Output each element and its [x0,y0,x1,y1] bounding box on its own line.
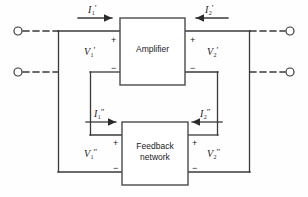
polarity-minus-v2-double-prime: − [192,164,197,173]
current-label-i2-double-prime: I2″ [200,108,211,120]
arrow-head-i2-double-prime [192,118,200,126]
polarity-plus-v1-prime: + [111,36,116,45]
polarity-minus-v2-prime: − [190,64,195,73]
terminal-input-top [14,27,22,35]
current-label-i1-double-prime-mark: ″ [101,107,105,117]
arrow-head-i1-prime [104,14,112,22]
voltage-label-v2-double-prime: V2″ [207,148,220,160]
amplifier-box-label: Amplifier [120,44,185,55]
arrow-head-i2-prime [196,14,204,22]
current-label-i1-prime: I1′ [88,4,97,16]
polarity-minus-v1-prime: − [111,64,116,73]
circuit-diagram-canvas: Amplifier Feedback network I1′ I2′ I1″ I… [0,0,308,197]
voltage-label-v2-double-prime-mark: ″ [217,147,221,157]
current-label-i2-double-prime-mark: ″ [207,107,211,117]
polarity-plus-v2-double-prime: + [192,139,197,148]
voltage-label-v2-prime-mark: ′ [217,45,219,55]
feedback-box-label-line1: Feedback [122,141,188,152]
polarity-minus-v1-double-prime: − [113,164,118,173]
current-label-i1-prime-mark: ′ [95,3,97,13]
terminal-output-bottom [286,68,294,76]
feedback-box-label: Feedback network [122,141,188,164]
voltage-label-v1-prime-mark: ′ [94,45,96,55]
current-label-i2-prime-mark: ′ [212,3,214,13]
voltage-label-v1-double-prime: V1″ [84,148,97,160]
voltage-label-v2-prime: V2′ [207,46,219,58]
polarity-plus-v2-prime: + [190,36,195,45]
voltage-label-v1-prime: V1′ [84,46,96,58]
circuit-schematic-svg [0,0,308,197]
terminal-input-bottom [14,68,22,76]
arrow-head-i1-double-prime [108,118,116,126]
voltage-label-v1-double-prime-mark: ″ [94,147,98,157]
current-label-i1-double-prime: I1″ [94,108,105,120]
terminal-output-top [286,27,294,35]
polarity-plus-v1-double-prime: + [113,139,118,148]
feedback-box-label-line2: network [122,152,188,163]
current-label-i2-prime: I2′ [205,4,214,16]
